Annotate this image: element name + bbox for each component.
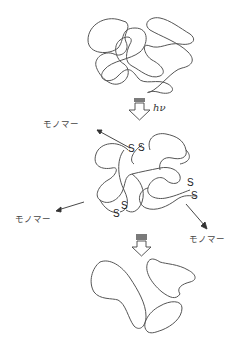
sulfur-atom: S — [187, 177, 194, 188]
sulfur-atom: S — [113, 208, 120, 219]
process-arrow-2 — [132, 235, 151, 256]
monomer-label-right: モノマー — [189, 232, 225, 244]
sulfur-atom: S — [128, 143, 135, 154]
final-polymer-fragments — [91, 259, 195, 333]
irradiated-polymer-network — [95, 134, 196, 213]
sulfur-atom: S — [138, 142, 145, 153]
sulfur-atom: S — [191, 190, 198, 201]
fragment-2 — [147, 259, 195, 298]
fragment-3 — [145, 302, 182, 333]
fragment-1 — [91, 261, 146, 328]
diagram-canvas — [0, 0, 252, 354]
initial-polymer-coil — [88, 18, 194, 94]
monomer-label-left: モノマー — [15, 212, 51, 224]
hv-label: hν — [153, 102, 166, 113]
process-arrow-1 — [129, 99, 150, 120]
sulfur-atom: S — [121, 200, 128, 211]
monomer-label-top-left: モノマー — [43, 117, 79, 129]
